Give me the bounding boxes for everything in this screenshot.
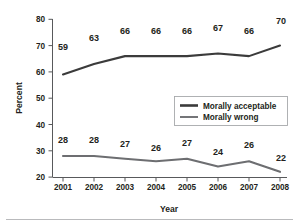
data-label: 66 [244, 26, 254, 36]
y-tick-label: 50 [36, 94, 46, 103]
line-chart: 80 70 60 50 40 30 20 Percent 2001 2002 2… [0, 0, 299, 224]
data-label: 28 [89, 135, 99, 145]
data-label: 26 [151, 143, 161, 153]
legend-label: Morally wrong [203, 113, 259, 122]
chart-figure: 80 70 60 50 40 30 20 Percent 2001 2002 2… [0, 0, 299, 224]
data-label: 66 [151, 26, 161, 36]
data-label: 27 [182, 138, 192, 148]
y-axis-title: Percent [14, 82, 24, 114]
x-tick-label: 2002 [85, 183, 104, 192]
x-tick-label: 2007 [240, 183, 259, 192]
data-label: 59 [58, 42, 68, 52]
x-tick-label: 2003 [116, 183, 135, 192]
data-label: 66 [182, 26, 192, 36]
y-tick-label: 40 [36, 121, 46, 130]
data-label: 28 [58, 135, 68, 145]
legend: Morally acceptable Morally wrong [175, 97, 288, 126]
y-tick-label: 70 [36, 42, 46, 51]
y-tick-label: 80 [36, 15, 46, 24]
y-tick-label: 60 [36, 68, 46, 77]
legend-label: Morally acceptable [203, 102, 277, 111]
data-label: 70 [276, 16, 286, 26]
x-tick-label: 2001 [54, 183, 73, 192]
data-label: 66 [120, 26, 130, 36]
data-label: 63 [89, 33, 99, 43]
x-tick-label: 2005 [178, 183, 197, 192]
x-axis-title: Year [160, 204, 179, 214]
x-tick-label: 2008 [271, 183, 290, 192]
y-tick-label: 30 [36, 147, 46, 156]
x-tick-label: 2004 [147, 183, 166, 192]
data-label: 24 [213, 147, 223, 157]
data-label: 27 [120, 139, 130, 149]
data-label: 26 [244, 140, 254, 150]
data-label: 67 [213, 23, 223, 33]
data-label: 22 [276, 153, 286, 163]
y-tick-label: 20 [36, 173, 46, 182]
x-tick-label: 2006 [209, 183, 228, 192]
